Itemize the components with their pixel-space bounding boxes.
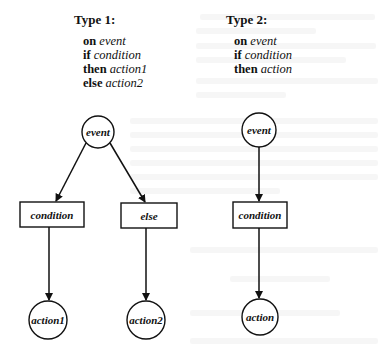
type1-event-node: event — [82, 116, 114, 148]
type2-action-node: action — [242, 299, 278, 335]
node-label: else — [140, 210, 157, 222]
type1-diagram: event condition else action1 action2 — [20, 116, 177, 339]
node-label: condition — [31, 209, 74, 221]
type1-action1-node: action1 — [29, 301, 67, 339]
type1-else-node: else — [121, 203, 177, 228]
node-label: action2 — [129, 314, 163, 326]
type2-event-node: event — [242, 113, 276, 147]
node-label: action1 — [31, 314, 65, 326]
rule-flow-diagram: event condition else action1 action2 — [0, 0, 380, 359]
node-label: action — [246, 311, 274, 323]
type1-condition-node: condition — [20, 202, 84, 227]
node-label: event — [247, 124, 272, 136]
node-label: condition — [239, 209, 282, 221]
type2-condition-node: condition — [233, 202, 287, 228]
type1-action2-node: action2 — [127, 301, 165, 339]
arrow-event-to-condition — [56, 143, 86, 201]
type2-diagram: event condition action — [233, 113, 287, 335]
arrow-event-to-else — [110, 143, 145, 202]
node-label: event — [86, 126, 111, 138]
